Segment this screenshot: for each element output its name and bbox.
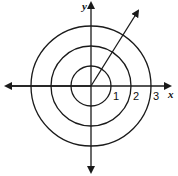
y-axis-label: y [80,0,87,12]
circle-label-1: 1 [113,90,119,102]
circle-label-2: 2 [133,90,139,102]
polar-grid-diagram: 1 2 3 x y [0,0,178,176]
ray-arrow [91,11,138,86]
x-axis-label: x [167,88,174,100]
circle-label-3: 3 [153,90,159,102]
